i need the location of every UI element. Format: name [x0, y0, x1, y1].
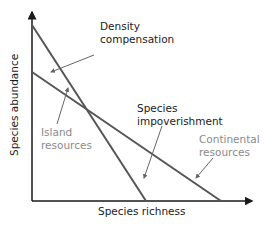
island-label-line2: resources: [41, 139, 92, 151]
y-axis-label: Species abundance: [8, 56, 20, 156]
island-label-line1: Island: [41, 126, 72, 138]
x-axis-label: Species richness: [98, 205, 218, 217]
species-richness-diagram: Species abundance Species richness Densi…: [0, 0, 271, 231]
continental-label-line2: resources: [199, 146, 250, 158]
density-label-line2: compensation: [100, 33, 174, 45]
impoverishment-label-line2: impoverishment: [137, 115, 223, 127]
island-resources-line: [32, 25, 146, 201]
continental-label-line1: Continental: [199, 133, 260, 145]
impoverishment-label-line1: Species: [137, 102, 177, 114]
continental-pointer-arrow: [196, 158, 213, 178]
impoverishment-pointer-arrow: [144, 126, 162, 178]
density-label-line1: Density: [100, 20, 140, 32]
